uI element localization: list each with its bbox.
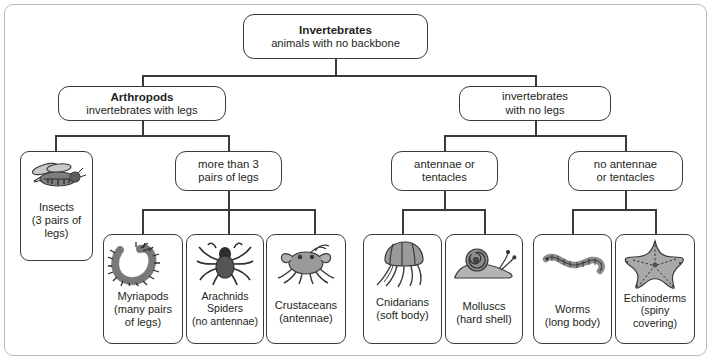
worm-icon [540,251,606,281]
leaf-molluscs-caption: Molluscs (hard shell) [454,300,514,326]
node-no-legs-line1: invertebrates [502,90,568,103]
connector-noantennae-bar [572,209,655,211]
leaf-insects[interactable]: Insects (3 pairs of legs) [20,151,93,261]
leaf-cnidarians[interactable]: Cnidarians (soft body) [363,234,442,344]
connector-antennae-bar [402,209,485,211]
jellyfish-icon [371,240,435,288]
connector-nolegs-stem [535,120,537,136]
leaf-insects-caption: Insects (3 pairs of legs) [30,201,83,240]
node-more3-line2: pairs of legs [198,171,258,184]
leaf-crustaceans-caption: Crustaceans (antennae) [273,299,339,325]
node-no-antennae-line2: or tentacles [597,171,655,184]
node-antennae-line1: antennae or [414,158,475,171]
connector-to-crustaceans [314,209,316,234]
connector-to-echinoderms [655,209,657,234]
node-no-legs-line2: with no legs [505,104,564,117]
leaf-echinoderms[interactable]: Echinoderms (spiny covering) [615,234,695,344]
node-invertebrates[interactable]: Invertebrates animals with no backbone [243,14,428,59]
connector-antennae-stem [444,190,446,210]
node-arthropods-line1: Arthropods [110,90,173,103]
node-antennae-line2: tentacles [422,171,467,184]
connector-noantennae-stem [625,190,627,210]
node-invertebrates-line1: Invertebrates [299,23,372,36]
node-antennae-or-tentacles[interactable]: antennae or tentacles [391,151,498,191]
leaf-myriapods[interactable]: Myriapods (many pairs of legs) [103,234,183,344]
connector-more3-stem [228,190,230,210]
leaf-echinoderms-caption: Echinoderms (spiny covering) [622,292,688,329]
snail-icon [451,247,517,285]
connector-root-bar [142,75,536,77]
connector-arthropods-stem [142,120,144,136]
leaf-myriapods-caption: Myriapods (many pairs of legs) [112,290,174,329]
leaf-arachnids[interactable]: Arachnids Spiders (no antennae) [186,234,264,344]
connector-arthropods-bar [55,135,229,137]
connector-to-worms [572,209,574,234]
crab-icon [272,243,340,285]
node-invertebrates-no-legs[interactable]: invertebrates with no legs [459,86,611,121]
leaf-crustaceans[interactable]: Crustaceans (antennae) [266,234,346,344]
connector-root-stem [335,59,337,76]
connector-to-arachnids [228,209,230,234]
connector-to-molluscs [484,209,486,234]
connector-to-no-antennae [625,135,627,151]
node-arthropods[interactable]: Arthropods invertebrates with legs [58,86,226,121]
connector-to-insects [55,135,57,151]
node-no-antennae-or-tentacles[interactable]: no antennae or tentacles [568,151,683,191]
leaf-cnidarians-caption: Cnidarians (soft body) [374,296,431,322]
node-more-than-3-pairs[interactable]: more than 3 pairs of legs [175,151,282,191]
connector-to-cnidarians [402,209,404,234]
bee-icon [28,160,86,194]
node-arthropods-line2: invertebrates with legs [86,104,197,117]
node-more3-line1: more than 3 [198,158,259,171]
connector-nolegs-bar [444,135,626,137]
diagram-canvas: Invertebrates animals with no backbone A… [0,0,713,362]
connector-to-more-than-3 [228,135,230,151]
leaf-molluscs[interactable]: Molluscs (hard shell) [445,234,523,344]
node-invertebrates-line2: animals with no backbone [271,37,400,50]
starfish-icon [622,239,688,289]
leaf-worms[interactable]: Worms (long body) [533,234,612,344]
connector-to-myriapods [142,209,144,234]
leaf-worms-caption: Worms (long body) [543,303,603,329]
millipede-icon [108,240,178,286]
spider-icon [194,240,256,286]
node-no-antennae-line1: no antennae [594,158,657,171]
connector-to-antennae [444,135,446,151]
leaf-arachnids-caption: Arachnids Spiders (no antennae) [190,290,260,327]
